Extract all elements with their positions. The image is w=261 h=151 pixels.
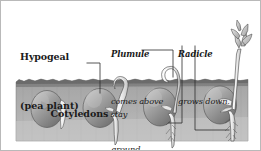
label-radicle: Radicle grows down. — [178, 12, 230, 145]
radicle-desc-1: grows down. — [178, 97, 230, 107]
plumule-desc-2: ground. — [111, 145, 163, 151]
plumule-desc-1: comes above — [111, 97, 163, 107]
hypogeal-germination-diagram: Hypogeal (pea plant) Cotyledons stay bel… — [0, 0, 261, 151]
label-plumule: Plumule comes above ground. — [111, 12, 163, 151]
root-hairs-stage-3 — [166, 121, 176, 141]
plumule-term: Plumule — [111, 50, 163, 60]
leaf-cluster — [231, 20, 252, 48]
radicle-term: Radicle — [178, 50, 230, 60]
cotyledons-term: Cotyledons — [51, 108, 109, 119]
